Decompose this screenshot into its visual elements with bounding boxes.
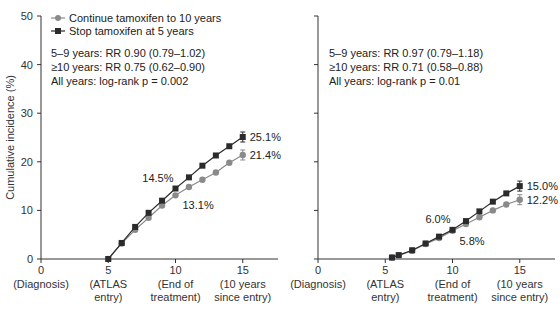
data-point-circle bbox=[503, 201, 509, 207]
data-point-square bbox=[199, 163, 205, 169]
value-annotation: 25.1% bbox=[250, 131, 281, 143]
data-point-square bbox=[132, 224, 138, 230]
x-tick-label: 10 bbox=[169, 264, 181, 276]
value-annotation: 5.8% bbox=[460, 235, 485, 247]
data-point-circle bbox=[240, 152, 246, 158]
value-annotation: 15.0% bbox=[527, 180, 558, 192]
stats-line: ≥10 years: RR 0.75 (0.62–0.90) bbox=[51, 61, 205, 73]
data-point-circle bbox=[517, 197, 523, 203]
y-tick-label: 30 bbox=[21, 107, 33, 119]
data-point-square bbox=[436, 234, 442, 240]
series-continue-tamoxifen bbox=[105, 150, 246, 262]
legend-circle-icon bbox=[55, 15, 61, 21]
value-annotation: 6.0% bbox=[425, 213, 450, 225]
data-point-square bbox=[490, 199, 496, 205]
y-tick-label: 10 bbox=[21, 204, 33, 216]
data-point-square bbox=[476, 208, 482, 214]
data-point-circle bbox=[213, 169, 219, 175]
legend-square-icon bbox=[55, 28, 61, 34]
x-tick-sublabel: entry) bbox=[94, 291, 122, 303]
chart-panel-left: 010203040500(Diagnosis)5(ATLASentry)10(E… bbox=[4, 10, 281, 303]
stats-line: 5–9 years: RR 0.90 (0.79–1.02) bbox=[51, 47, 205, 59]
x-tick-sublabel: (10 years bbox=[220, 278, 266, 290]
legend-label: Continue tamoxifen to 10 years bbox=[69, 12, 222, 24]
x-tick-sublabel: (Diagnosis) bbox=[13, 278, 69, 290]
y-tick-label: 40 bbox=[21, 59, 33, 71]
legend: Continue tamoxifen to 10 yearsStop tamox… bbox=[51, 12, 222, 37]
data-point-square bbox=[213, 152, 219, 158]
data-point-square bbox=[517, 183, 523, 189]
data-point-square bbox=[240, 134, 246, 140]
y-tick-label: 50 bbox=[21, 10, 33, 22]
x-tick-sublabel: treatment) bbox=[150, 291, 200, 303]
stats-line: ≥10 years: RR 0.71 (0.58–0.88) bbox=[329, 61, 483, 73]
data-point-square bbox=[119, 240, 125, 246]
data-point-square bbox=[396, 252, 402, 258]
x-tick-sublabel: since entry) bbox=[214, 291, 271, 303]
x-tick-label: 15 bbox=[514, 264, 526, 276]
data-point-circle bbox=[199, 177, 205, 183]
stats-text: 5–9 years: RR 0.97 (0.79–1.18)≥10 years:… bbox=[329, 47, 483, 87]
data-point-square bbox=[105, 256, 111, 262]
x-tick-label: 10 bbox=[446, 264, 458, 276]
data-point-circle bbox=[226, 160, 232, 166]
chart-panel-right: 0(Diagnosis)5(ATLASentry)10(End oftreatm… bbox=[290, 16, 558, 303]
data-point-square bbox=[423, 240, 429, 246]
x-tick-sublabel: (10 years bbox=[497, 278, 543, 290]
data-point-square bbox=[186, 174, 192, 180]
chart-canvas: 010203040500(Diagnosis)5(ATLASentry)10(E… bbox=[0, 0, 560, 311]
x-tick-label: 0 bbox=[315, 264, 321, 276]
x-tick-label: 5 bbox=[105, 264, 111, 276]
x-tick-sublabel: treatment) bbox=[427, 291, 477, 303]
data-point-square bbox=[146, 210, 152, 216]
x-tick-sublabel: entry) bbox=[371, 291, 399, 303]
x-tick-label: 0 bbox=[38, 264, 44, 276]
y-tick-label: 20 bbox=[21, 156, 33, 168]
x-tick-label: 15 bbox=[237, 264, 249, 276]
stats-text: 5–9 years: RR 0.90 (0.79–1.02)≥10 years:… bbox=[51, 47, 205, 87]
series-stop-tamoxifen bbox=[389, 181, 523, 260]
stats-line: 5–9 years: RR 0.97 (0.79–1.18) bbox=[329, 47, 483, 59]
data-point-circle bbox=[186, 184, 192, 190]
x-tick-label: 5 bbox=[382, 264, 388, 276]
data-point-square bbox=[450, 227, 456, 233]
data-point-square bbox=[226, 143, 232, 149]
data-point-circle bbox=[172, 192, 178, 198]
data-point-square bbox=[173, 186, 179, 192]
stats-line: All years: log-rank p = 0.01 bbox=[329, 75, 460, 87]
x-tick-sublabel: (ATLAS bbox=[89, 278, 127, 290]
data-point-square bbox=[389, 255, 395, 261]
value-annotation: 12.2% bbox=[527, 194, 558, 206]
value-annotation: 13.1% bbox=[183, 199, 214, 211]
y-tick-label: 0 bbox=[27, 253, 33, 265]
data-point-square bbox=[409, 247, 415, 253]
x-tick-sublabel: (Diagnosis) bbox=[290, 278, 346, 290]
data-point-circle bbox=[476, 214, 482, 220]
data-point-square bbox=[503, 190, 509, 196]
x-tick-sublabel: (End of bbox=[435, 278, 471, 290]
data-point-square bbox=[159, 198, 165, 204]
value-annotation: 21.4% bbox=[250, 149, 281, 161]
y-axis-label: Cumulative incidence (%) bbox=[4, 75, 16, 200]
x-tick-sublabel: (ATLAS bbox=[366, 278, 404, 290]
value-annotation: 14.5% bbox=[142, 172, 173, 184]
data-point-circle bbox=[490, 207, 496, 213]
legend-label: Stop tamoxifen at 5 years bbox=[69, 25, 194, 37]
x-tick-sublabel: since entry) bbox=[491, 291, 548, 303]
data-point-square bbox=[463, 218, 469, 224]
stats-line: All years: log-rank p = 0.002 bbox=[51, 75, 188, 87]
x-tick-sublabel: (End of bbox=[158, 278, 194, 290]
